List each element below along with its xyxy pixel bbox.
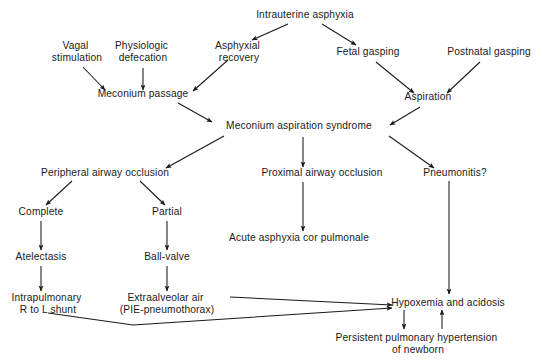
- node-intrapulmonary-shunt-line1: Intrapulmonary: [11, 292, 82, 303]
- node-extraalveolar-air-line1: Extraalveolar air: [127, 292, 204, 303]
- node-intrauterine-asphyxia: Intrauterine asphyxia: [256, 9, 354, 20]
- node-aspiration: Aspiration: [405, 91, 452, 102]
- node-acute-asphyxia-cor-pulmonale: Acute asphyxia cor pulmonale: [229, 232, 369, 243]
- node-pphn-line1: Persistent pulmonary hypertension: [336, 332, 498, 343]
- node-extraalveolar-air-line2: (PIE-pneumothorax): [120, 304, 214, 315]
- node-meconium-aspiration-syndrome: Meconium aspiration syndrome: [226, 120, 372, 131]
- edge-postnatal-gasping-to-aspiration: [447, 62, 480, 93]
- node-extraalveolar-air: Extraalveolar air (PIE-pneumothorax): [120, 292, 214, 315]
- node-proximal-airway-occlusion: Proximal airway occlusion: [262, 167, 383, 178]
- node-physiologic-defecation-line2: defecation: [119, 52, 168, 63]
- edge-mas-to-pneumonitis: [389, 136, 434, 168]
- node-pneumonitis: Pneumonitis?: [423, 167, 487, 178]
- node-meconium-passage: Meconium passage: [98, 88, 189, 99]
- edge-peripheral-to-partial: [140, 181, 165, 205]
- node-vagal-stimulation: Vagal stimulation: [52, 40, 102, 63]
- edge-vagal-to-meconium-passage: [83, 67, 105, 90]
- edge-peripheral-to-complete: [46, 181, 72, 205]
- node-partial: Partial: [152, 206, 182, 217]
- edge-aspiration-to-mas: [390, 107, 420, 125]
- node-ball-valve: Ball-valve: [144, 251, 190, 262]
- node-postnatal-gasping: Postnatal gasping: [447, 46, 531, 57]
- edge-meconium-passage-to-mas: [178, 103, 212, 122]
- edge-mas-to-peripheral: [166, 136, 224, 168]
- edge-intrapulmonary-to-hypoxemia: [48, 308, 392, 325]
- node-atelectasis: Atelectasis: [16, 251, 67, 262]
- nodes-layer: Intrauterine asphyxia Vagal stimulation …: [11, 9, 530, 355]
- flowchart-svg: Intrauterine asphyxia Vagal stimulation …: [0, 0, 542, 363]
- node-persistent-pulmonary-hypertension: Persistent pulmonary hypertension of new…: [336, 332, 501, 355]
- node-fetal-gasping: Fetal gasping: [336, 46, 399, 57]
- node-hypoxemia-and-acidosis: Hypoxemia and acidosis: [391, 297, 505, 308]
- edge-fetal-gasping-to-aspiration: [376, 62, 414, 93]
- node-asphyxial-recovery-line1: Asphyxial: [215, 40, 260, 51]
- node-intrapulmonary-shunt: Intrapulmonary R to L shunt: [11, 292, 84, 315]
- edge-extraalveolar-to-hypoxemia: [230, 297, 392, 305]
- node-pphn-line2: of newborn: [392, 344, 444, 355]
- node-complete: Complete: [19, 206, 64, 217]
- node-peripheral-airway-occlusion: Peripheral airway occlusion: [41, 167, 169, 178]
- node-vagal-stimulation-line1: Vagal: [62, 40, 88, 51]
- node-asphyxial-recovery-line2: recovery: [219, 52, 260, 63]
- node-vagal-stimulation-line2: stimulation: [52, 52, 102, 63]
- node-physiologic-defecation: Physiologic defecation: [115, 40, 171, 63]
- edge-asphyxial-to-meconium-passage: [193, 60, 228, 91]
- node-asphyxial-recovery: Asphyxial recovery: [215, 40, 263, 63]
- edge-intrauterine-to-fetal-gasping: [322, 24, 356, 45]
- node-intrapulmonary-shunt-line2: R to L shunt: [20, 304, 76, 315]
- flowchart-canvas: Intrauterine asphyxia Vagal stimulation …: [0, 0, 542, 363]
- node-physiologic-defecation-line1: Physiologic: [115, 40, 168, 51]
- edge-intrauterine-to-asphyxial: [252, 24, 288, 40]
